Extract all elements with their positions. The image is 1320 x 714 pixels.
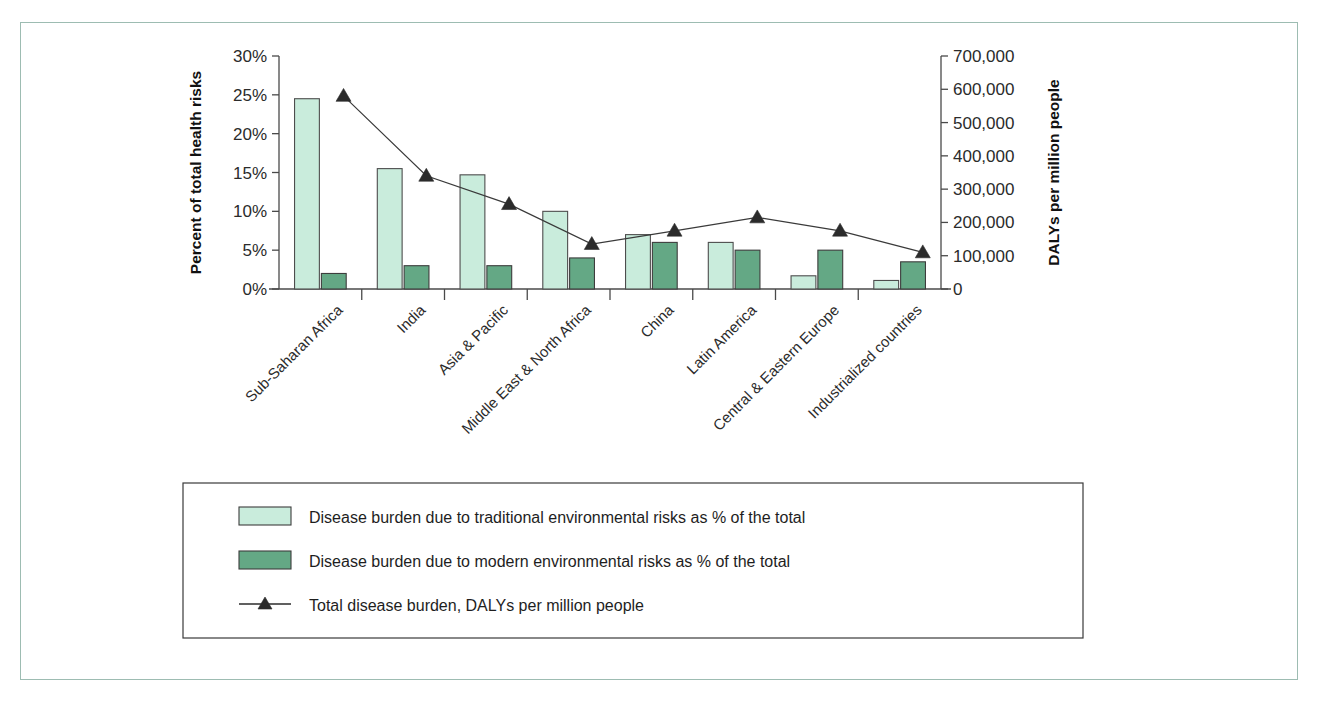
- left-axis-title: Percent of total health risks: [187, 71, 204, 274]
- bar-group: [295, 99, 926, 289]
- left-axis-tick-label: 0%: [242, 280, 267, 299]
- right-axis-tick-label: 600,000: [953, 80, 1014, 99]
- bar-modern: [487, 266, 512, 289]
- chart-canvas: 0%5%10%15%20%25%30%Percent of total heal…: [21, 23, 1299, 681]
- category-label: Sub-Saharan Africa: [242, 301, 346, 405]
- bar-traditional: [791, 276, 816, 289]
- legend-item: Disease burden due to traditional enviro…: [239, 507, 805, 526]
- x-axis: [269, 289, 951, 300]
- bar-modern: [570, 258, 595, 289]
- left-axis-tick-label: 25%: [233, 86, 267, 105]
- line-series-group: [336, 88, 930, 257]
- category-label: Latin America: [683, 301, 760, 378]
- legend-label: Disease burden due to traditional enviro…: [309, 509, 805, 526]
- trend-line: [344, 96, 923, 253]
- bar-traditional: [874, 280, 899, 289]
- bar-modern: [321, 273, 346, 289]
- legend: Disease burden due to traditional enviro…: [183, 483, 1083, 638]
- bar-traditional: [543, 211, 568, 289]
- combo-chart: 0%5%10%15%20%25%30%Percent of total heal…: [21, 23, 1299, 681]
- legend-label: Disease burden due to modern environment…: [309, 553, 790, 570]
- category-label: Asia & Pacific: [434, 301, 511, 378]
- right-axis-tick-label: 300,000: [953, 180, 1014, 199]
- category-label: India: [393, 301, 428, 336]
- legend-label: Total disease burden, DALYs per million …: [309, 597, 644, 614]
- bar-traditional: [295, 99, 320, 289]
- bar-modern: [818, 250, 843, 289]
- right-axis-tick-label: 400,000: [953, 147, 1014, 166]
- right-axis-tick-label: 500,000: [953, 114, 1014, 133]
- trend-marker-triangle: [336, 88, 351, 101]
- left-axis-tick-label: 15%: [233, 164, 267, 183]
- right-axis-title: DALYs per million people: [1045, 79, 1062, 266]
- bar-modern: [735, 250, 760, 289]
- right-axis-tick-label: 700,000: [953, 47, 1014, 66]
- bar-modern: [404, 266, 429, 289]
- left-axis-tick-label: 10%: [233, 202, 267, 221]
- category-label: China: [637, 301, 677, 341]
- left-axis-tick-label: 5%: [242, 241, 267, 260]
- legend-item: Disease burden due to modern environment…: [239, 551, 790, 570]
- trend-marker-triangle: [502, 197, 517, 210]
- trend-marker-triangle: [750, 210, 765, 223]
- bar-modern: [901, 262, 926, 289]
- right-axis: 0100,000200,000300,000400,000500,000600,…: [941, 47, 1062, 299]
- left-axis-tick-label: 30%: [233, 47, 267, 66]
- right-axis-tick-label: 200,000: [953, 213, 1014, 232]
- left-axis-tick-label: 20%: [233, 125, 267, 144]
- bar-traditional: [708, 242, 733, 289]
- left-axis: 0%5%10%15%20%25%30%Percent of total heal…: [187, 47, 279, 299]
- bar-modern: [652, 242, 677, 289]
- category-labels: Sub-Saharan AfricaIndiaAsia & PacificMid…: [242, 301, 925, 437]
- bar-traditional: [377, 169, 402, 289]
- bar-traditional: [626, 235, 651, 289]
- legend-swatch-modern: [239, 551, 291, 569]
- legend-swatch-traditional: [239, 507, 291, 525]
- figure-frame: 0%5%10%15%20%25%30%Percent of total heal…: [20, 22, 1298, 680]
- right-axis-tick-label: 0: [953, 280, 962, 299]
- right-axis-tick-label: 100,000: [953, 247, 1014, 266]
